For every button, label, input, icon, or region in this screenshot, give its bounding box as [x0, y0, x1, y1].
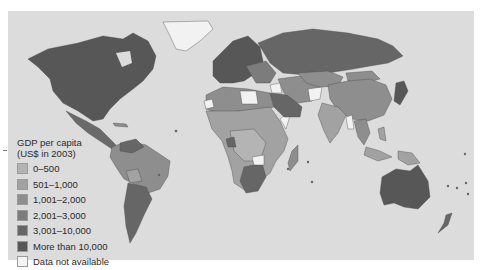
legend-label: 501–1,000 [33, 179, 78, 190]
region-new-zealand [438, 213, 452, 233]
legend-swatch [17, 179, 28, 190]
legend-swatch [17, 210, 28, 221]
legend-tick-mark [3, 150, 7, 151]
legend-swatch [17, 194, 28, 205]
region-gabon [226, 137, 236, 147]
legend-item-2001-3000: 2,001–3,000 [17, 208, 109, 224]
region-australia [380, 165, 430, 209]
legend-swatch [17, 256, 28, 267]
map-legend: GDP per capita (US$ in 2003) 0–500 501–1… [17, 137, 109, 270]
legend-label: 3,001–10,000 [33, 225, 91, 236]
legend-label: 2,001–3,000 [33, 210, 86, 221]
legend-item-3001-10000: 3,001–10,000 [17, 223, 109, 239]
region-north-america [28, 33, 156, 121]
legend-item-0-500: 0–500 [17, 161, 109, 177]
legend-label: More than 10,000 [33, 241, 107, 252]
region-papua [398, 151, 420, 165]
region-argentina-chile [124, 183, 152, 243]
legend-label: 1,001–2,000 [33, 194, 86, 205]
region-madagascar [288, 145, 298, 171]
region-iraq-nodata [270, 83, 282, 93]
legend-swatch [17, 163, 28, 174]
legend-label: 0–500 [33, 163, 59, 174]
legend-swatch [17, 241, 28, 252]
legend-swatch [17, 225, 28, 236]
legend-item-1001-2000: 1,001–2,000 [17, 192, 109, 208]
legend-item-more-than-10000: More than 10,000 [17, 239, 109, 255]
legend-label: Data not available [33, 256, 109, 267]
legend-item-501-1000: 501–1,000 [17, 177, 109, 193]
legend-title: GDP per capita (US$ in 2003) [17, 137, 109, 159]
legend-item-no-data: Data not available [17, 254, 109, 270]
region-southern-africa [240, 163, 266, 193]
region-indonesia [364, 147, 392, 161]
legend-title-line2: (US$ in 2003) [17, 148, 109, 159]
region-western-sahara [204, 99, 214, 109]
legend-title-line1: GDP per capita [17, 137, 109, 148]
region-russia [258, 29, 403, 75]
region-philippines [378, 127, 386, 141]
region-zimbabwe-nodata [252, 155, 264, 165]
region-afghanistan-nodata [308, 87, 322, 101]
region-greenland [163, 21, 213, 51]
region-libya-nodata [240, 91, 258, 104]
region-korea-japan [394, 81, 408, 105]
region-southeast-asia [354, 119, 370, 145]
